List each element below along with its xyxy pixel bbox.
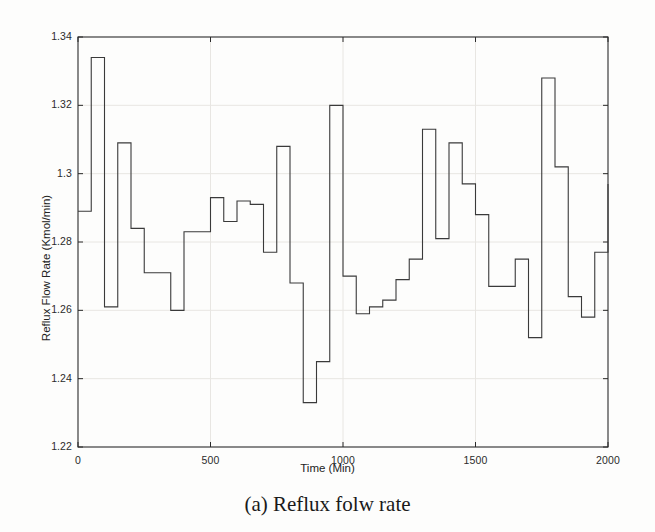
y-axis-label: Reflux Flow Rate (Kmol/min): [40, 168, 52, 368]
y-tick-label: 1.24: [30, 372, 72, 384]
x-axis-label: Time (Min): [0, 462, 655, 474]
y-tick-label: 1.32: [30, 98, 72, 110]
figure-caption: (a) Reflux folw rate: [0, 492, 655, 517]
figure-page: 1.341.321.31.281.261.241.22 050010001500…: [0, 0, 655, 532]
y-tick-label: 1.22: [30, 440, 72, 452]
y-tick-label: 1.34: [30, 30, 72, 42]
y-axis-label-wrap: Reflux Flow Rate (Kmol/min): [12, 142, 32, 342]
plot-canvas: [0, 0, 655, 480]
chart-figure: 1.341.321.31.281.261.241.22 050010001500…: [0, 0, 655, 480]
